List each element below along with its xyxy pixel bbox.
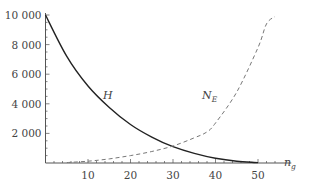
x-tick-label: 50 [251,169,264,181]
x-tick-label: 40 [209,169,222,181]
y-tick-label: 4 000 [11,98,41,110]
series-ne-curve [67,17,275,163]
line-chart: 2 0004 0006 0008 00010 000 1020304050 H … [0,0,311,187]
x-axis-label: ng [284,156,296,171]
x-tick-label: 30 [166,169,179,181]
label-ne: NE [201,89,218,104]
y-tick-label: 6 000 [11,68,41,80]
x-tick-label: 20 [124,169,137,181]
y-tick-label: 10 000 [5,9,42,21]
y-axis-ticks: 2 0004 0006 0008 00010 000 [5,9,50,156]
series-h-curve [46,15,259,163]
y-tick-label: 8 000 [11,39,41,51]
y-tick-label: 2 000 [11,127,41,139]
x-tick-label: 10 [81,169,94,181]
label-h: H [102,89,113,102]
